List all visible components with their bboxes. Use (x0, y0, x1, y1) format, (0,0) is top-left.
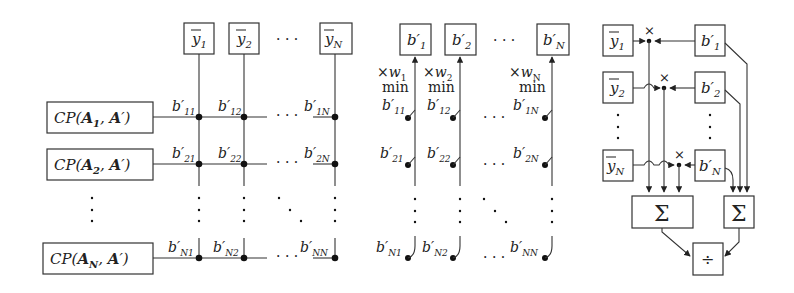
multiply-icon-n: × (674, 147, 685, 162)
svg-text:b′12: b′12 (218, 98, 242, 117)
svg-text:Σ: Σ (731, 201, 747, 226)
cp-box-n: CP(AN, A′) (43, 243, 153, 274)
row-ellipsis-n: · · · (276, 248, 298, 264)
divide-box: ÷ (693, 243, 723, 275)
svg-text:Σ: Σ (654, 201, 670, 226)
y-bar-box-1: y1 (184, 23, 214, 54)
b-prime-box-1: b′1 (400, 24, 431, 55)
y-bar-box-2: y2 (229, 23, 259, 54)
rp-b-box-n: b′N (695, 150, 725, 181)
top-ellipsis: · · · (276, 31, 298, 47)
svg-text:min: min (382, 79, 409, 95)
rp-y-box-n: yN (603, 150, 633, 181)
svg-text:b′N2: b′N2 (422, 239, 448, 258)
weights: ×w1 ×w2 ×wN min min min (377, 64, 546, 95)
svg-text:CP(A1, A′): CP(A1, A′) (54, 109, 131, 129)
svg-text:÷: ÷ (701, 250, 714, 269)
rp-b-box-2: b′2 (695, 72, 725, 103)
svg-text:b′22: b′22 (427, 145, 451, 164)
svg-text:CP(A2, A′): CP(A2, A′) (54, 156, 131, 176)
cp-box-2: CP(A2, A′) (47, 149, 153, 180)
middle-panel: b′1 b′2 · · · b′N ×w1 ×w2 ×wN min min mi… (376, 24, 569, 265)
mid-row-ellipsis-2: · · · (483, 156, 505, 172)
svg-text:b′N2: b′N2 (213, 239, 239, 258)
b-prime-box-n: b′N (537, 24, 569, 55)
svg-text:b′11: b′11 (172, 98, 196, 117)
sum-box-numerator: Σ (632, 196, 693, 228)
svg-text:b′N1: b′N1 (168, 239, 194, 258)
b-prime-box-2: b′2 (445, 24, 476, 55)
rp-y-box-2: y2 (603, 72, 633, 103)
sum-box-denominator: Σ (724, 196, 754, 228)
rp-y-box-1: y1 (603, 25, 633, 56)
cp-box-1: CP(A1, A′) (47, 102, 153, 133)
svg-text:b′1N: b′1N (513, 97, 540, 116)
mid-row-ellipsis-n: · · · (483, 249, 505, 265)
diagram-canvas: y1 y2 · · · yN CP(A1, A′) CP(A2, A′) (0, 0, 794, 293)
svg-text:b′2N: b′2N (513, 145, 540, 164)
top-ellipsis-mid: · · · (493, 32, 515, 48)
y-bar-box-n: yN (320, 23, 352, 54)
svg-text:min: min (519, 79, 546, 95)
svg-text:min: min (428, 79, 455, 95)
left-panel: y1 y2 · · · yN CP(A1, A′) CP(A2, A′) (43, 23, 352, 274)
vertical-ellipsis (91, 197, 336, 222)
switch-labels: b′11 b′12 b′1N b′21 b′22 b′2N b′N1 b′N2 … (376, 97, 540, 258)
svg-text:b′22: b′22 (218, 145, 242, 164)
svg-text:b′11: b′11 (382, 97, 406, 116)
mid-vertical-ellipsis (414, 198, 553, 223)
svg-text:b′NN: b′NN (510, 239, 539, 258)
svg-text:b′12: b′12 (427, 97, 451, 116)
svg-text:b′21: b′21 (172, 145, 196, 164)
rp-b-box-1: b′1 (695, 25, 725, 56)
svg-text:b′N1: b′N1 (376, 239, 402, 258)
node-labels: b′11 b′12 b′1N b′21 b′22 b′2N b′N1 b′N2 … (168, 98, 331, 258)
svg-text:b′1N: b′1N (304, 98, 331, 117)
svg-text:b′2N: b′2N (304, 145, 331, 164)
right-panel: y1 y2 yN b′1 b′2 b′N (603, 23, 754, 275)
svg-text:b′NN: b′NN (300, 239, 329, 258)
mid-row-ellipsis-1: · · · (483, 109, 505, 125)
row-ellipsis-2: · · · (276, 154, 298, 170)
multiply-icon-2: × (659, 70, 670, 85)
svg-text:b′21: b′21 (380, 145, 404, 164)
multiply-icon-1: × (644, 23, 655, 38)
row-ellipsis-1: · · · (276, 107, 298, 123)
